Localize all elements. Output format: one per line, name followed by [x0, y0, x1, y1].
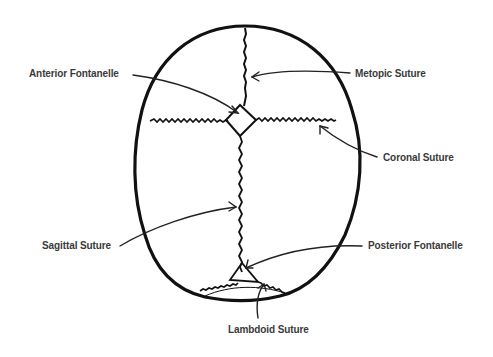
sagittal-suture-arrowhead	[229, 202, 236, 211]
label-metopic-suture: Metopic Suture	[355, 68, 426, 79]
sagittal-suture-arrow	[120, 207, 236, 246]
skull-outline	[135, 26, 360, 301]
anterior-fontanelle-shape	[226, 105, 256, 136]
label-posterior-fontanelle: Posterior Fontanelle	[368, 240, 463, 251]
coronal-suture-arrow	[320, 126, 377, 157]
sagittal-suture-line	[239, 136, 242, 272]
metopic-suture-line	[244, 28, 246, 106]
coronal-suture-left-line	[150, 119, 228, 122]
label-anterior-fontanelle: Anterior Fontanelle	[29, 68, 119, 79]
posterior-fontanelle-shape	[230, 263, 258, 282]
label-sagittal-suture: Sagittal Suture	[42, 240, 111, 251]
posterior-fontanelle-arrow	[246, 246, 362, 268]
label-coronal-suture: Coronal Suture	[383, 152, 454, 163]
coronal-suture-right-line	[256, 118, 336, 121]
skull-diagram	[0, 0, 493, 357]
lambdoid-inner-arc	[205, 287, 285, 296]
label-lambdoid-suture: Lambdoid Suture	[228, 324, 309, 335]
